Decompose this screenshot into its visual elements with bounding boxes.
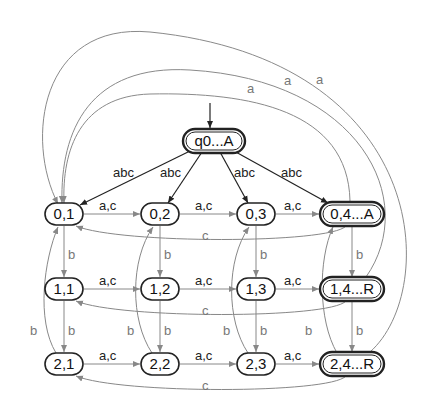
edge-label-abc-1: abc <box>113 165 134 180</box>
svg-text:1,2: 1,2 <box>150 280 171 297</box>
edge-label-b: b <box>164 323 171 338</box>
edge-label-ac: a,c <box>284 198 302 213</box>
automaton-diagram: a a a abc abc abc abc a,c a,c a,c a,c a,… <box>0 0 447 408</box>
edge-label-b: b <box>164 247 171 262</box>
state-2-1: 2,1 <box>45 353 83 375</box>
edge-label-b: b <box>260 323 267 338</box>
svg-text:1,4...R: 1,4...R <box>330 280 374 297</box>
edge-14-to-01-a <box>62 70 385 277</box>
edge-label-ac: a,c <box>284 273 302 288</box>
edge-label-b: b <box>260 247 267 262</box>
edge-label-ac: a,c <box>195 198 213 213</box>
svg-text:2,2: 2,2 <box>150 355 171 372</box>
state-2-2: 2,2 <box>141 353 179 375</box>
edge-label-c: c <box>202 228 209 243</box>
edge-label-a-2: a <box>284 73 292 88</box>
svg-text:2,3: 2,3 <box>246 355 267 372</box>
svg-text:2,4...R: 2,4...R <box>330 355 374 372</box>
edge-label-ac: a,c <box>195 348 213 363</box>
state-0-1: 0,1 <box>45 203 83 225</box>
state-0-4-accept: 0,4...A <box>320 202 384 226</box>
edge-label-ac: a,c <box>284 348 302 363</box>
edge-label-b: b <box>30 323 37 338</box>
svg-text:0,1: 0,1 <box>54 205 75 222</box>
state-1-2: 1,2 <box>141 278 179 300</box>
b-back-edges <box>44 227 337 353</box>
state-2-3: 2,3 <box>237 353 275 375</box>
svg-text:1,1: 1,1 <box>54 280 75 297</box>
edge-label-a-1: a <box>247 81 255 96</box>
edge-label-a-3: a <box>316 72 324 87</box>
edge-label-ac: a,c <box>99 198 117 213</box>
svg-text:q0...A: q0...A <box>194 132 233 149</box>
edge-label-b: b <box>68 323 75 338</box>
edge-label-b: b <box>68 247 75 262</box>
state-0-3: 0,3 <box>237 203 275 225</box>
svg-text:1,3: 1,3 <box>246 280 267 297</box>
c-back-edges <box>76 226 346 390</box>
edge-label-b: b <box>356 323 363 338</box>
edge-label-abc-3: abc <box>234 165 255 180</box>
svg-text:0,2: 0,2 <box>150 205 171 222</box>
state-q0: q0...A <box>183 129 245 153</box>
edge-label-ac: a,c <box>99 348 117 363</box>
edge-label-c: c <box>202 378 209 393</box>
state-1-4-reject: 1,4...R <box>320 277 384 301</box>
edge-label-ac: a,c <box>195 273 213 288</box>
state-1-3: 1,3 <box>237 278 275 300</box>
state-2-4-reject: 2,4...R <box>320 352 384 376</box>
edge-label-ac: a,c <box>99 273 117 288</box>
edge-label-c: c <box>202 303 209 318</box>
svg-text:2,1: 2,1 <box>54 355 75 372</box>
state-1-1: 1,1 <box>45 278 83 300</box>
state-0-2: 0,2 <box>141 203 179 225</box>
edge-label-abc-2: abc <box>160 165 181 180</box>
edge-label-b: b <box>305 323 312 338</box>
svg-text:0,3: 0,3 <box>246 205 267 222</box>
edge-label-b: b <box>223 323 230 338</box>
edge-label-b: b <box>356 247 363 262</box>
edge-label-b: b <box>127 323 134 338</box>
edge-label-abc-4: abc <box>281 165 302 180</box>
svg-text:0,4...A: 0,4...A <box>330 205 373 222</box>
